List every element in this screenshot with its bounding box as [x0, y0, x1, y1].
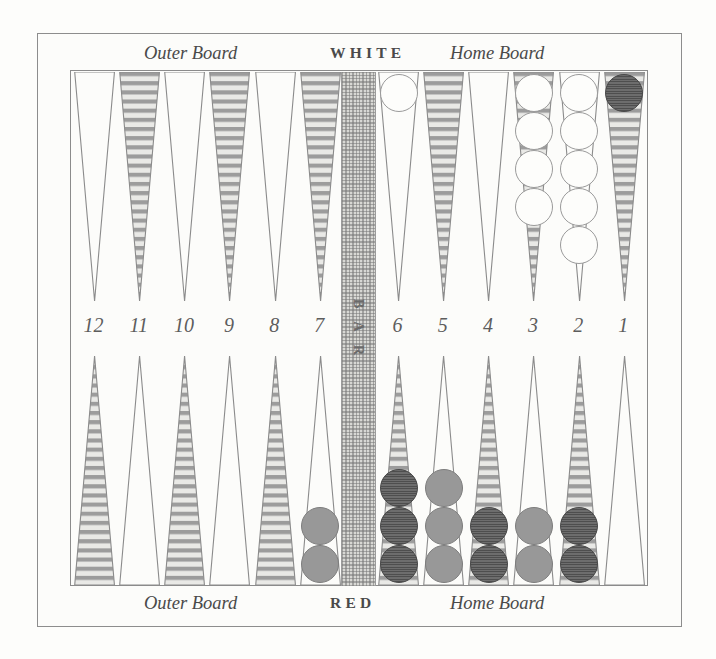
point-11[interactable]	[117, 356, 162, 585]
backgammon-diagram: Outer Board WHITE Home Board Outer Board…	[0, 0, 716, 659]
point-7[interactable]	[298, 72, 343, 301]
point-4[interactable]	[466, 356, 511, 585]
checker-white[interactable]	[515, 188, 553, 226]
checker-dark[interactable]	[560, 545, 598, 583]
checker-dark[interactable]	[560, 507, 598, 545]
checker-stack[interactable]	[511, 74, 556, 226]
point-8[interactable]	[253, 72, 298, 301]
checker-gray[interactable]	[515, 545, 553, 583]
checker-gray[interactable]	[425, 507, 463, 545]
checker-dark[interactable]	[380, 545, 418, 583]
point-2[interactable]	[557, 72, 602, 301]
checker-gray[interactable]	[301, 545, 339, 583]
checker-white[interactable]	[560, 226, 598, 264]
point-7[interactable]	[298, 356, 343, 585]
bar-label: B A R	[350, 298, 367, 359]
checker-gray[interactable]	[301, 507, 339, 545]
point-1[interactable]	[602, 72, 647, 301]
point-5[interactable]	[421, 356, 466, 585]
point-2[interactable]	[557, 356, 602, 585]
point-12[interactable]	[72, 356, 117, 585]
checker-white[interactable]	[380, 74, 418, 112]
checker-stack[interactable]	[511, 507, 556, 583]
quadrant-bottom-right	[376, 356, 647, 585]
checker-stack[interactable]	[421, 469, 466, 583]
checker-white[interactable]	[515, 150, 553, 188]
point-6[interactable]	[376, 72, 421, 301]
checker-stack[interactable]	[557, 74, 602, 264]
point-12[interactable]	[72, 72, 117, 301]
point-1[interactable]	[602, 356, 647, 585]
checker-stack[interactable]	[376, 74, 421, 112]
checker-stack[interactable]	[298, 507, 343, 583]
point-9[interactable]	[207, 356, 252, 585]
bar[interactable]: B A R	[341, 72, 376, 586]
point-6[interactable]	[376, 356, 421, 585]
checker-white[interactable]	[560, 188, 598, 226]
checker-white[interactable]	[560, 150, 598, 188]
quadrant-top-left	[72, 72, 343, 301]
quadrant-bottom-left	[72, 356, 343, 585]
point-10[interactable]	[162, 72, 207, 301]
point-4[interactable]	[466, 72, 511, 301]
checker-stack[interactable]	[557, 507, 602, 583]
point-8[interactable]	[253, 356, 298, 585]
point-3[interactable]	[511, 72, 556, 301]
checker-gray[interactable]	[515, 507, 553, 545]
checker-white[interactable]	[515, 112, 553, 150]
checker-gray[interactable]	[425, 545, 463, 583]
checker-stack[interactable]	[466, 507, 511, 583]
playing-field: B A R	[70, 70, 648, 586]
checker-dark[interactable]	[470, 545, 508, 583]
checker-white[interactable]	[560, 112, 598, 150]
point-9[interactable]	[207, 72, 252, 301]
checker-white[interactable]	[515, 74, 553, 112]
checker-dark[interactable]	[380, 469, 418, 507]
checker-white[interactable]	[560, 74, 598, 112]
point-3[interactable]	[511, 356, 556, 585]
checker-gray[interactable]	[425, 469, 463, 507]
quadrant-top-right	[376, 72, 647, 301]
point-10[interactable]	[162, 356, 207, 585]
checker-stack[interactable]	[376, 469, 421, 583]
point-5[interactable]	[421, 72, 466, 301]
point-11[interactable]	[117, 72, 162, 301]
checker-dark[interactable]	[380, 507, 418, 545]
checker-dark[interactable]	[605, 74, 643, 112]
checker-stack[interactable]	[602, 74, 647, 112]
checker-dark[interactable]	[470, 507, 508, 545]
